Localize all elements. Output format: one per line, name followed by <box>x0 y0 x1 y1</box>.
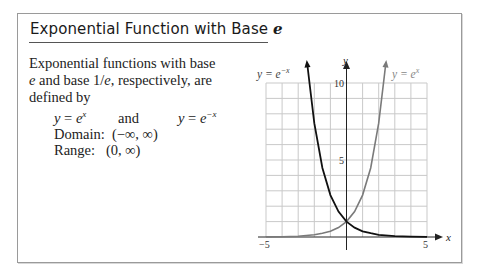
y-tick-5: 5 <box>339 155 344 166</box>
curve-exp-x <box>266 66 386 237</box>
x-axis-label: x <box>445 231 451 243</box>
x-tick-max: 5 <box>423 239 428 250</box>
label-exp-neg-x: y = e−x <box>256 66 290 81</box>
curve-exp-neg-x <box>308 66 428 237</box>
label-exp-x: y = ex <box>391 66 420 81</box>
exponential-graph: y = e−x y = ex y x 10 5 −5 5 <box>0 0 485 278</box>
y-axis-label: y <box>342 54 348 66</box>
y-tick-10: 10 <box>334 78 344 89</box>
curve-exp-neg-x-arrow-icon <box>305 60 311 68</box>
x-axis-arrow-icon <box>435 234 443 241</box>
x-tick-min: −5 <box>259 239 270 250</box>
curve-exp-x-arrow-icon <box>383 60 389 68</box>
